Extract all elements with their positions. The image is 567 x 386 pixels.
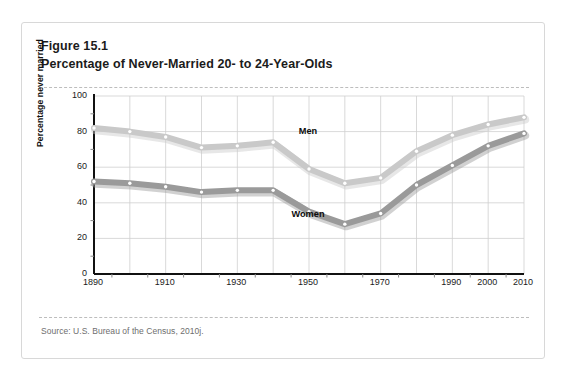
y-axis-tick-label: 100 <box>72 90 87 100</box>
data-point-marker <box>128 182 131 185</box>
data-point-marker <box>343 222 346 225</box>
x-axis-tick-label: 2010 <box>513 277 533 287</box>
x-axis-tick-label: 1930 <box>226 277 246 287</box>
source-note: Source: U.S. Bureau of the Census, 2010j… <box>41 326 204 336</box>
chart-svg <box>93 95 525 275</box>
x-axis-tick-label: 1910 <box>155 277 175 287</box>
x-axis-tick-labels: 18901910193019501970199020002010 <box>93 277 523 293</box>
y-axis-tick-label: 60 <box>77 161 87 171</box>
y-axis-tick-label: 80 <box>77 126 87 136</box>
x-axis-tick-label: 1890 <box>83 277 103 287</box>
data-point-marker <box>451 133 454 136</box>
data-point-marker <box>92 180 95 183</box>
divider-top <box>39 87 529 88</box>
data-point-marker <box>522 132 525 135</box>
x-axis-tick-label: 1950 <box>298 277 318 287</box>
data-point-marker <box>128 130 131 133</box>
data-point-marker <box>92 126 95 129</box>
y-axis-tick-labels: 020406080100 <box>61 95 87 273</box>
series-label-men: Men <box>299 126 317 136</box>
data-point-marker <box>451 164 454 167</box>
x-axis-tick-label: 1990 <box>441 277 461 287</box>
chart-plot-area: Percentage never married 020406080100 Me… <box>39 95 531 311</box>
data-point-marker <box>164 185 167 188</box>
series-label-women: Women <box>291 209 324 219</box>
data-point-marker <box>415 149 418 152</box>
data-point-marker <box>486 144 489 147</box>
chart-canvas: MenWomen <box>93 95 523 273</box>
divider-bottom <box>39 317 529 318</box>
x-axis-tick-label: 2000 <box>477 277 497 287</box>
data-point-marker <box>200 190 203 193</box>
y-axis-tick-label: 20 <box>77 232 87 242</box>
data-point-marker <box>415 183 418 186</box>
data-point-marker <box>200 146 203 149</box>
data-point-marker <box>164 135 167 138</box>
data-point-marker <box>522 116 525 119</box>
screenshot-root: Figure 15.1 Percentage of Never-Married … <box>0 0 567 386</box>
data-point-marker <box>307 167 310 170</box>
y-axis-label: Percentage never married <box>35 27 45 147</box>
figure-number: Figure 15.1 <box>41 37 501 55</box>
y-axis-tick-label: 40 <box>77 197 87 207</box>
data-point-marker <box>236 189 239 192</box>
figure-title-block: Figure 15.1 Percentage of Never-Married … <box>41 37 501 73</box>
figure-title: Percentage of Never-Married 20- to 24-Ye… <box>41 55 501 73</box>
data-point-marker <box>379 212 382 215</box>
data-point-marker <box>343 182 346 185</box>
data-point-marker <box>379 176 382 179</box>
data-point-marker <box>486 123 489 126</box>
x-axis-tick-label: 1970 <box>370 277 390 287</box>
data-point-marker <box>271 189 274 192</box>
figure-card: Figure 15.1 Percentage of Never-Married … <box>21 22 545 359</box>
data-point-marker <box>236 144 239 147</box>
data-point-marker <box>271 141 274 144</box>
